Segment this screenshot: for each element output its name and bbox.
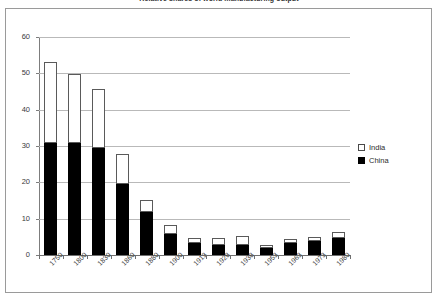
x-tick-mark: [39, 255, 40, 259]
x-tick-mark: [63, 255, 64, 259]
bar-group[interactable]: [260, 37, 273, 255]
bar-segment-china: [140, 211, 153, 255]
bar-group[interactable]: [92, 37, 105, 255]
bar-segment-india: [44, 62, 57, 143]
x-tick-mark: [302, 255, 303, 259]
bar-segment-india: [164, 225, 177, 234]
x-tick-mark: [87, 255, 88, 259]
bar-group[interactable]: [116, 37, 129, 255]
x-axis: 1750180018301860188019001913192819381953…: [39, 255, 350, 300]
y-tick-label: 30: [0, 142, 30, 150]
bar-group[interactable]: [236, 37, 249, 255]
chart-title: Relative shares of world manufacturing o…: [0, 0, 438, 3]
x-tick-mark: [230, 255, 231, 259]
hollow-square-swatch: [358, 144, 365, 151]
x-tick-mark: [278, 255, 279, 259]
bar-segment-india: [188, 238, 201, 243]
bar-segment-china: [68, 142, 81, 255]
x-tick-mark: [159, 255, 160, 259]
bar-group[interactable]: [68, 37, 81, 255]
x-tick-mark: [111, 255, 112, 259]
bar-segment-india: [308, 237, 321, 241]
bar-group[interactable]: [44, 37, 57, 255]
bar-segment-india: [116, 154, 129, 184]
bar-group[interactable]: [212, 37, 225, 255]
x-tick-mark: [254, 255, 255, 259]
bar-segment-india: [284, 239, 297, 244]
plot-area: [39, 37, 350, 255]
bar-group[interactable]: [284, 37, 297, 255]
bar-group[interactable]: [140, 37, 153, 255]
filled-square-swatch: [358, 157, 365, 164]
y-tick-label: 60: [0, 33, 30, 41]
bar-segment-india: [92, 89, 105, 148]
chart-legend: IndiaChina: [358, 142, 424, 168]
bar-segment-india: [236, 236, 249, 245]
x-tick-mark: [326, 255, 327, 259]
bar-segment-india: [260, 245, 273, 248]
x-tick-mark: [135, 255, 136, 259]
y-tick-label: 10: [0, 215, 30, 223]
bar-segment-india: [140, 200, 153, 213]
bar-group[interactable]: [188, 37, 201, 255]
x-tick-mark: [206, 255, 207, 259]
y-tick-label: 20: [0, 178, 30, 186]
legend-label: India: [369, 144, 385, 152]
x-tick-mark: [183, 255, 184, 259]
legend-label: China: [369, 157, 389, 165]
y-tick-label: 0: [0, 251, 30, 259]
bar-segment-china: [92, 147, 105, 255]
legend-item[interactable]: India: [358, 142, 424, 153]
x-tick-mark: [350, 255, 351, 259]
bar-segment-china: [44, 142, 57, 255]
bar-group[interactable]: [332, 37, 345, 255]
bar-segment-india: [212, 238, 225, 245]
bar-segment-china: [116, 183, 129, 255]
bar-segment-china: [164, 233, 177, 255]
bar-segment-india: [68, 74, 81, 143]
legend-item[interactable]: China: [358, 155, 424, 166]
bar-segment-india: [332, 232, 345, 237]
chart-figure: Relative shares of world manufacturing o…: [0, 0, 438, 300]
bar-group[interactable]: [164, 37, 177, 255]
bar-group[interactable]: [308, 37, 321, 255]
y-tick-label: 50: [0, 69, 30, 77]
bar-segment-china: [332, 237, 345, 255]
y-axis: 0102030405060: [0, 0, 39, 300]
y-tick-label: 40: [0, 106, 30, 114]
